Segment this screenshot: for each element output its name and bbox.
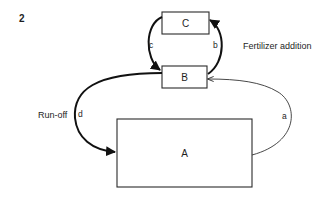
flow-a-label: a [282, 111, 287, 121]
flow-b-label: b [213, 40, 218, 50]
figure-number: 2 [19, 13, 25, 24]
run-off-label: Run-off [38, 110, 68, 120]
compartment-c-label: C [182, 18, 189, 29]
compartment-a-label: A [181, 148, 188, 159]
compartment-b-label: B [181, 72, 188, 83]
fertilizer-addition-label: Fertilizer addition [243, 41, 312, 51]
compartment-flow-diagram: 2 C B A c b Fertilizer addition d Run-of… [0, 0, 324, 200]
flow-d-label: d [78, 109, 83, 119]
compartment-b: B [162, 66, 207, 88]
compartment-a: A [117, 119, 252, 187]
flow-c-label: c [149, 40, 154, 50]
compartment-c: C [162, 12, 209, 34]
